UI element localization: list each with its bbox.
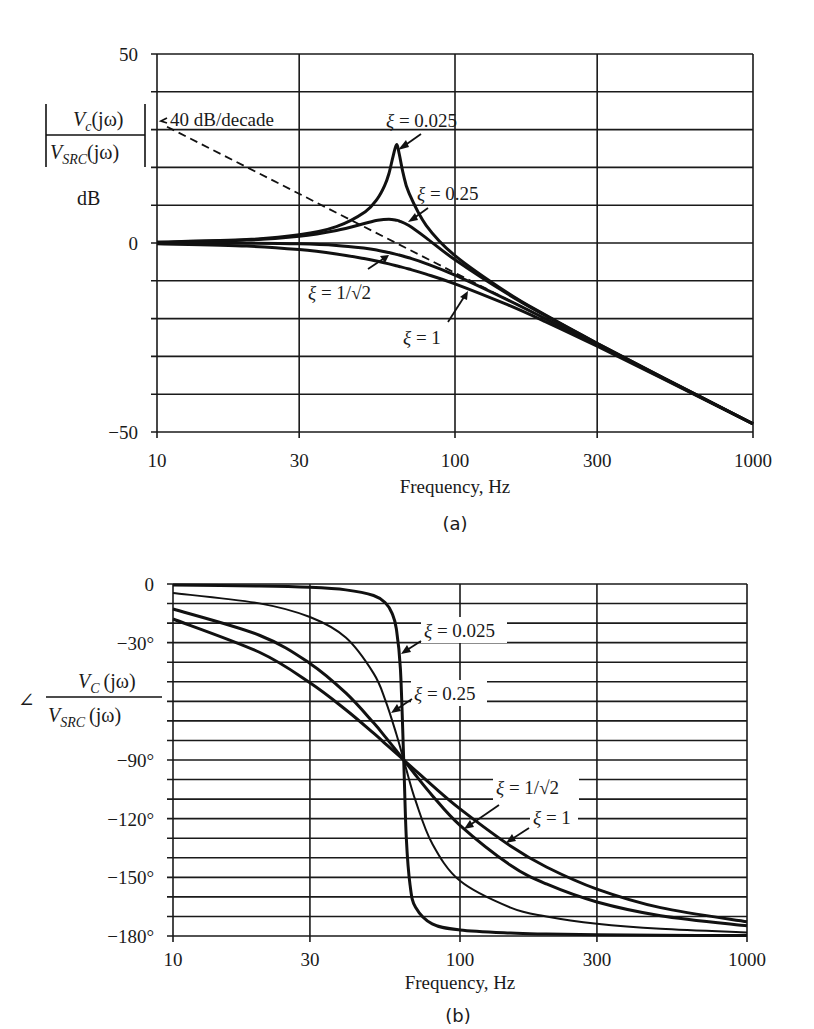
y-label-unit: dB: [77, 187, 100, 209]
asymptote-annotation: 40 dB/decade: [161, 109, 274, 130]
label-zeta-0025: ξ = 0.025: [424, 620, 495, 641]
y-tick-label: 50: [119, 44, 138, 65]
x-tick-label: 100: [441, 450, 470, 471]
magnitude-x-axis-title: Frequency, Hz: [400, 476, 511, 497]
y-tick-label: −150°: [107, 867, 154, 888]
asymptote-label: 40 dB/decade: [170, 109, 274, 130]
label-zeta-1: ξ = 1: [403, 327, 441, 348]
y-tick-label: −120°: [107, 809, 154, 830]
x-tick-label: 1000: [728, 949, 766, 970]
label-zeta-025: ξ = 0.25: [417, 183, 479, 204]
x-tick-label: 10: [148, 450, 167, 471]
caption-b: (b): [445, 1005, 470, 1026]
label-zeta-1-sqrt2: ξ = 1/√2: [308, 282, 371, 303]
label-zeta-1-sqrt2: ξ = 1/√2: [496, 777, 559, 798]
phase-x-axis-title: Frequency, Hz: [405, 972, 516, 993]
label-zeta-0025: ξ = 0.025: [386, 110, 457, 131]
angle-symbol: ∠: [18, 689, 35, 711]
x-tick-label: 300: [583, 450, 612, 471]
y-tick-label: −30°: [117, 633, 154, 654]
x-tick-label: 30: [300, 949, 319, 970]
label-zeta-025: ξ = 0.25: [414, 683, 476, 704]
y-tick-label: 0: [145, 574, 155, 595]
y-tick-label: −180°: [107, 926, 154, 947]
label-zeta-1: ξ = 1: [533, 807, 571, 828]
x-tick-label: 300: [583, 949, 612, 970]
y-tick-label: −50: [108, 422, 138, 443]
x-tick-label: 1000: [734, 450, 772, 471]
caption-a: (a): [442, 513, 467, 534]
y-tick-label: −90°: [117, 750, 154, 771]
x-tick-label: 10: [164, 949, 183, 970]
x-tick-label: 30: [290, 450, 309, 471]
x-tick-label: 100: [446, 949, 475, 970]
bode-figure: 500−50 10301003001000 Vc(jω) VSRC(jω) dB…: [0, 0, 814, 1029]
y-tick-label: 0: [129, 233, 139, 254]
